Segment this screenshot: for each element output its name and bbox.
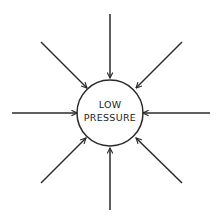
arrow-top-right [136,42,182,88]
arrow-bottom-right [136,138,182,183]
arrow-bottom-left [41,138,86,183]
center-label-line1: LOW [99,99,122,110]
low-pressure-diagram: LOW PRESSURE [0,0,220,216]
center-label-line2: PRESSURE [84,112,136,123]
arrow-top-left [41,42,87,88]
